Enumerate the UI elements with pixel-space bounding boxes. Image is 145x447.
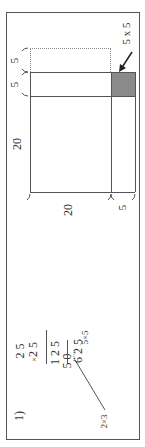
multiplier-row: ×2 5 bbox=[27, 342, 39, 362]
annotation-5x5: 5×5 bbox=[81, 330, 90, 344]
multiplicand: 2 5 bbox=[14, 344, 26, 359]
top-label-5a: 5 bbox=[9, 82, 20, 88]
annotation-2x3: 2×3 bbox=[100, 414, 109, 428]
product-rule-1 bbox=[46, 330, 47, 364]
bottom-label-20: 20 bbox=[62, 204, 74, 216]
multiplier: 2 5 bbox=[26, 342, 40, 357]
product-rule-2 bbox=[67, 340, 68, 364]
braces-and-arrows bbox=[0, 0, 145, 447]
problem-number: 1) bbox=[13, 411, 25, 421]
bottom-label-5: 5 bbox=[117, 205, 128, 211]
times-sign: × bbox=[29, 357, 39, 362]
shaded-label: 5 x 5 bbox=[121, 23, 132, 45]
top-label-5b: 5 bbox=[9, 58, 20, 64]
arrow-head-icon bbox=[119, 64, 126, 72]
side-label-20: 20 bbox=[11, 138, 23, 150]
callout-line bbox=[75, 360, 105, 410]
